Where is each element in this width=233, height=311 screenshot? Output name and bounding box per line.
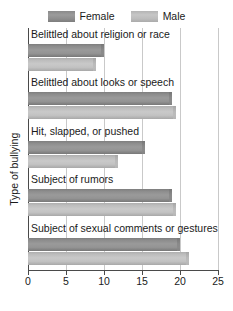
category-label: Subject of sexual comments or gestures bbox=[31, 222, 218, 235]
category-label: Belittled about religion or race bbox=[31, 28, 170, 41]
bar-fill bbox=[28, 141, 145, 154]
category-label: Belittled about looks or speech bbox=[31, 76, 174, 89]
bar-chart: Female Male Belittled about religion or … bbox=[0, 0, 233, 311]
male-swatch-icon bbox=[131, 11, 158, 22]
bar-male bbox=[28, 58, 96, 71]
bar-female bbox=[28, 238, 180, 251]
x-tick-label-10: 10 bbox=[98, 276, 110, 287]
x-tick-label-20: 20 bbox=[174, 276, 186, 287]
bar-end-cap bbox=[173, 203, 176, 216]
x-tick-label-0: 0 bbox=[25, 276, 31, 287]
x-tick-label-25: 25 bbox=[212, 276, 224, 287]
bar-fill bbox=[28, 44, 104, 57]
bar-end-cap bbox=[186, 252, 189, 265]
bar-fill bbox=[28, 189, 172, 202]
bar-female bbox=[28, 141, 145, 154]
legend-label-male: Male bbox=[163, 11, 186, 22]
bar-end-cap bbox=[115, 155, 118, 168]
bar-fill bbox=[28, 155, 118, 168]
bar-fill bbox=[28, 203, 176, 216]
bar-group: Belittled about religion or race bbox=[28, 28, 218, 76]
category-label: Subject of rumors bbox=[31, 173, 113, 186]
y-axis-title: Type of bullying bbox=[9, 109, 20, 229]
bar-fill bbox=[28, 58, 96, 71]
bar-female bbox=[28, 92, 172, 105]
x-tick-label-15: 15 bbox=[136, 276, 148, 287]
bar-fill bbox=[28, 252, 189, 265]
bar-female bbox=[28, 44, 104, 57]
bar-end-cap bbox=[169, 189, 172, 202]
bar-female bbox=[28, 189, 172, 202]
plot-wrapper: Belittled about religion or raceBelittle… bbox=[0, 26, 233, 274]
bar-male bbox=[28, 203, 176, 216]
x-tick-label-5: 5 bbox=[63, 276, 69, 287]
category-label: Hit, slapped, or pushed bbox=[31, 125, 139, 138]
bar-male bbox=[28, 106, 176, 119]
bar-fill bbox=[28, 106, 176, 119]
legend-item-male: Male bbox=[131, 11, 186, 22]
chart-legend: Female Male bbox=[0, 6, 233, 26]
bar-end-cap bbox=[177, 238, 180, 251]
bar-end-cap bbox=[142, 141, 145, 154]
bar-end-cap bbox=[93, 58, 96, 71]
bar-fill bbox=[28, 92, 172, 105]
bar-group: Subject of rumors bbox=[28, 173, 218, 221]
bar-end-cap bbox=[169, 92, 172, 105]
bar-group: Subject of sexual comments or gestures bbox=[28, 222, 218, 270]
bar-groups-layer: Belittled about religion or raceBelittle… bbox=[28, 28, 218, 270]
x-axis-line bbox=[28, 270, 219, 271]
bar-group: Belittled about looks or speech bbox=[28, 76, 218, 124]
bar-fill bbox=[28, 238, 180, 251]
female-swatch-icon bbox=[48, 11, 75, 22]
legend-item-female: Female bbox=[48, 11, 115, 22]
bar-male bbox=[28, 155, 118, 168]
bar-end-cap bbox=[101, 44, 104, 57]
gridline-25 bbox=[218, 28, 219, 270]
bar-group: Hit, slapped, or pushed bbox=[28, 125, 218, 173]
bar-end-cap bbox=[173, 106, 176, 119]
bar-male bbox=[28, 252, 189, 265]
legend-label-female: Female bbox=[80, 11, 115, 22]
